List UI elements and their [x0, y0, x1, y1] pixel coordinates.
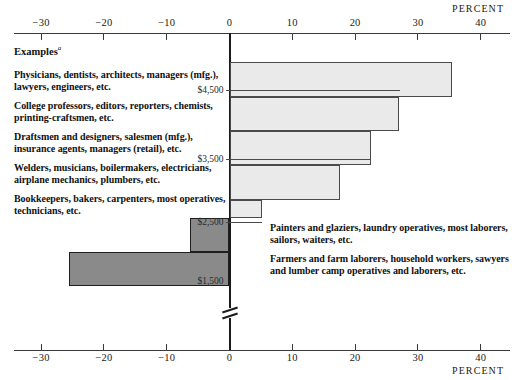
example-block-right-1: Painters and glaziers, laundry operative…	[270, 222, 520, 247]
axis-tick-label-bottom--20: −20	[84, 352, 124, 363]
axis-tick-top-30	[417, 34, 418, 40]
axis-break-icon	[222, 306, 238, 320]
axis-tick-label-top-30: 30	[398, 17, 438, 28]
income-rule-2	[226, 222, 263, 223]
axis-tick-bottom-40	[480, 344, 481, 350]
example-block-right-2: Farmers and farm laborers, household wor…	[270, 253, 520, 278]
axis-tick-top-20	[355, 34, 356, 40]
bar-chart: −30−30−20−20−10−10001010202030304040 PER…	[0, 0, 522, 380]
top-axis-line	[14, 33, 510, 34]
bar-5	[230, 200, 263, 218]
axis-tick-label-top-10: 10	[272, 17, 312, 28]
axis-tick-label-top--30: −30	[21, 17, 61, 28]
examples-heading-text: Examples	[14, 46, 58, 57]
axis-tick-label-bottom-0: 0	[210, 352, 250, 363]
axis-tick-label-bottom-40: 40	[461, 352, 501, 363]
zero-axis-line-lower	[229, 318, 231, 350]
bottom-axis-line	[14, 350, 510, 351]
bar-2	[230, 97, 400, 131]
example-block-left-1: Physicians, dentists, architects, manage…	[14, 69, 226, 94]
bar-4	[230, 165, 341, 200]
axis-tick-label-bottom-20: 20	[335, 352, 375, 363]
axis-tick-bottom--30	[41, 344, 42, 350]
axis-tick-label-top--10: −10	[147, 17, 187, 28]
examples-heading-footnote-marker: a	[58, 44, 62, 52]
axis-tick-label-top-20: 20	[335, 17, 375, 28]
axis-tick-top--20	[103, 34, 104, 40]
axis-tick-top--10	[166, 34, 167, 40]
axis-tick-label-top--20: −20	[84, 17, 124, 28]
axis-tick-top--30	[41, 34, 42, 40]
axis-tick-bottom-10	[292, 344, 293, 350]
example-block-left-4: Welders, musicians, boilermakers, electr…	[14, 162, 226, 187]
axis-tick-bottom--20	[103, 344, 104, 350]
income-label-2500: $2,500	[168, 217, 224, 227]
axis-tick-label-bottom--30: −30	[21, 352, 61, 363]
percent-label-top: PERCENT	[452, 3, 504, 14]
example-block-left-2: College professors, editors, reporters, …	[14, 100, 226, 125]
examples-heading: Examplesa	[14, 44, 61, 57]
axis-tick-label-bottom-30: 30	[398, 352, 438, 363]
axis-tick-bottom-20	[355, 344, 356, 350]
axis-tick-label-top-0: 0	[210, 17, 250, 28]
income-rule-1	[226, 159, 372, 160]
axis-tick-top-10	[292, 34, 293, 40]
axis-tick-label-top-40: 40	[461, 17, 501, 28]
example-block-left-3: Draftsmen and designers, salesmen (mfg.)…	[14, 131, 226, 156]
income-label-1500: $1,500	[168, 276, 224, 286]
axis-tick-top-40	[480, 34, 481, 40]
percent-label-bottom: PERCENT	[452, 365, 504, 376]
income-rule-0	[226, 90, 401, 91]
axis-tick-bottom--10	[166, 344, 167, 350]
example-block-left-5: Bookkeepers, bakers, carpenters, most op…	[14, 193, 226, 218]
axis-tick-label-bottom-10: 10	[272, 352, 312, 363]
axis-tick-label-bottom--10: −10	[147, 352, 187, 363]
bar-1	[230, 62, 452, 97]
axis-tick-bottom-30	[417, 344, 418, 350]
